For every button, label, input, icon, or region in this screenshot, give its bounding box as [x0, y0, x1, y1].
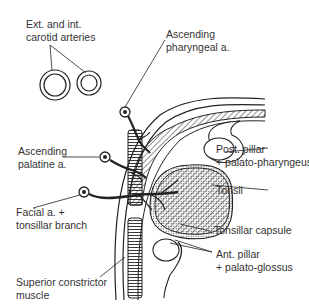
label-line: pharyngeal a.: [166, 41, 230, 54]
label-line: Ext. and int.: [26, 18, 95, 31]
label-superior-constrictor: Superior constrictor muscle: [16, 276, 107, 302]
label-tonsillar-capsule: Tonsillar capsule: [214, 224, 292, 237]
label-line: tonsillar branch: [16, 219, 87, 232]
label-line: Ascending: [166, 28, 230, 41]
label-line: palatine a.: [18, 158, 67, 171]
label-tonsil: Tonsil: [216, 184, 243, 197]
label-line: + palato-pharyngeus: [216, 156, 309, 169]
anterior-pillar: [153, 239, 182, 298]
label-facial-artery: Facial a. + tonsillar branch: [16, 206, 87, 232]
label-line: muscle: [16, 289, 107, 302]
label-line: Ascending: [18, 145, 67, 158]
label-ant-pillar: Ant. pillar + palato-glossus: [216, 248, 293, 274]
label-ascending-palatine: Ascending palatine a.: [18, 145, 67, 171]
label-line: Facial a. +: [16, 206, 87, 219]
carotid-arteries: [40, 45, 101, 100]
label-ascending-pharyngeal: Ascending pharyngeal a.: [166, 28, 230, 54]
label-carotid-arteries: Ext. and int. carotid arteries: [26, 18, 95, 44]
label-line: + palato-glossus: [216, 261, 293, 274]
label-line: Superior constrictor: [16, 276, 107, 289]
label-line: Post. pillar: [216, 143, 309, 156]
label-line: carotid arteries: [26, 31, 95, 44]
label-line: Tonsil: [216, 184, 243, 197]
label-post-pillar: Post. pillar + palato-pharyngeus: [216, 143, 309, 169]
label-line: Tonsillar capsule: [214, 224, 292, 237]
label-line: Ant. pillar: [216, 248, 293, 261]
